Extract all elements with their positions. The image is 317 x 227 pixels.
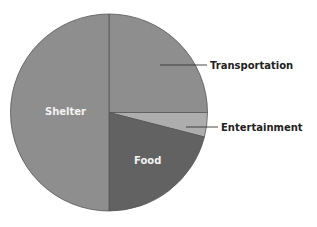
food-label: Food xyxy=(134,155,161,166)
pie-chart: Transportation Entertainment Shelter Foo… xyxy=(0,0,317,227)
entertainment-label: Entertainment xyxy=(221,122,303,133)
slice-transportation xyxy=(109,14,208,113)
transportation-label: Transportation xyxy=(210,60,293,71)
pie-slices xyxy=(10,14,207,211)
shelter-label: Shelter xyxy=(45,106,86,117)
